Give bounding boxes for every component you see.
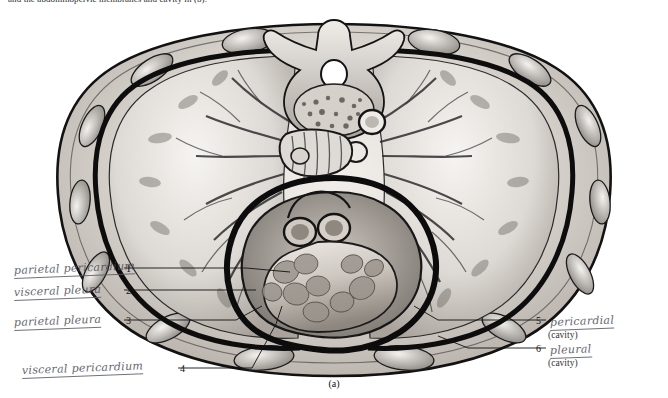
- annotation-sub-5: (cavity): [548, 330, 578, 340]
- annotation-number-3: 3: [126, 315, 131, 326]
- annotation-sub-6: (cavity): [548, 358, 578, 368]
- annotation-number-5: 5: [536, 315, 541, 326]
- annotation-number-1: 1: [126, 263, 131, 274]
- figure-part-label: (a): [0, 378, 668, 389]
- document-page: and the abdominopelvic membranes and cav…: [0, 0, 668, 398]
- annotation-number-6: 6: [536, 343, 541, 354]
- annotation-number-4: 4: [180, 363, 185, 374]
- annotation-label-6: pleural: [550, 342, 592, 359]
- annotation-number-2: 2: [126, 285, 131, 296]
- annotation-label-5: pericardial: [550, 314, 615, 331]
- top-caption: and the abdominopelvic membranes and cav…: [8, 0, 207, 4]
